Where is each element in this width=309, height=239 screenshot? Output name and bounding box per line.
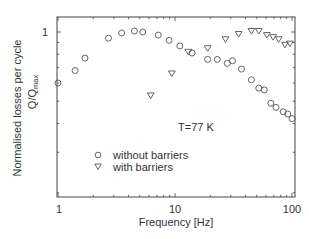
data-point-circle (256, 85, 262, 91)
data-point-circle (131, 28, 137, 34)
data-series (55, 28, 295, 122)
data-point-triangle (255, 29, 262, 35)
data-point-triangle (263, 33, 270, 39)
data-point-circle (261, 87, 267, 93)
y-axis-label: Normalised losses per cycle Q/Qmax (11, 40, 40, 177)
data-point-circle (214, 56, 220, 62)
x-axis-label: Frequency [Hz] (139, 216, 214, 228)
data-point-triangle (147, 93, 154, 99)
data-point-circle (289, 116, 295, 122)
data-point-circle (105, 35, 111, 41)
data-point-triangle (185, 49, 192, 55)
data-point-circle (238, 66, 244, 72)
data-point-triangle (222, 37, 229, 43)
series-without-barriers (55, 28, 295, 122)
data-point-circle (155, 32, 161, 38)
data-point-triangle (248, 29, 255, 35)
y-axis-label-line2: Q/Qmax (26, 75, 40, 110)
x-tick-label: 1 (56, 203, 62, 215)
data-point-circle (177, 43, 183, 49)
data-point-triangle (168, 71, 175, 77)
data-point-circle (166, 37, 172, 43)
data-point-circle (82, 55, 88, 61)
y-tick-label: 1 (42, 26, 48, 38)
data-point-circle (229, 58, 235, 64)
plot-border (57, 17, 295, 197)
data-point-circle (248, 77, 254, 83)
chart: 110100 1 T=77 K without barriers with ba… (0, 0, 309, 239)
temperature-annotation: T=77 K (178, 121, 214, 133)
legend-circle-marker-icon (95, 152, 101, 158)
x-axis-ticks: 110100 (56, 17, 301, 215)
data-point-circle (72, 68, 78, 74)
data-point-circle (119, 30, 125, 36)
legend-label-with-barriers: with barriers (112, 161, 173, 173)
legend-triangle-marker-icon (95, 164, 101, 170)
legend-label-without-barriers: without barriers (112, 149, 189, 161)
data-point-circle (205, 56, 211, 62)
x-tick-label: 100 (283, 203, 301, 215)
data-point-circle (140, 29, 146, 35)
plot-frame (57, 17, 295, 197)
data-point-triangle (275, 37, 282, 43)
data-point-circle (189, 50, 195, 56)
data-point-circle (273, 104, 279, 110)
series-with-barriers (147, 29, 293, 99)
legend: without barriers with barriers (95, 149, 189, 173)
data-point-circle (268, 100, 274, 106)
x-tick-label: 10 (169, 203, 181, 215)
data-point-triangle (204, 46, 211, 52)
data-point-triangle (235, 32, 242, 38)
y-axis-label-line1: Normalised losses per cycle (11, 40, 23, 177)
